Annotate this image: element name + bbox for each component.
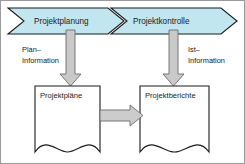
project-planning-control-diagram: Projektplanung Projektkontrolle Plan– In… bbox=[0, 0, 245, 164]
diagram-canvas: Projektplanung Projektkontrolle Plan– In… bbox=[0, 0, 245, 164]
document-projektberichte-label: Projektberichte bbox=[145, 91, 196, 100]
phase-band-projektplanung-label: Projektplanung bbox=[34, 17, 89, 26]
flow-ist-label-line2: Information bbox=[188, 56, 225, 65]
flow-plan-label-line1: Plan– bbox=[22, 45, 42, 54]
phase-band-projektkontrolle-label: Projektkontrolle bbox=[133, 17, 190, 26]
flow-plan-label-line2: Information bbox=[22, 56, 59, 65]
flow-ist-label-line1: Ist– bbox=[188, 45, 201, 54]
document-projektplaene-label: Projektpläne bbox=[40, 91, 82, 100]
